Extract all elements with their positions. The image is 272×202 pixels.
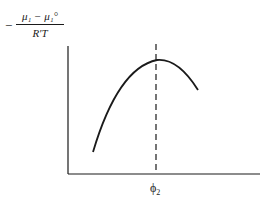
- x-axis-label: ϕ2: [150, 181, 160, 197]
- x-label-subscript: 2: [156, 188, 160, 197]
- curve: [93, 60, 198, 152]
- plot-area: [0, 0, 272, 202]
